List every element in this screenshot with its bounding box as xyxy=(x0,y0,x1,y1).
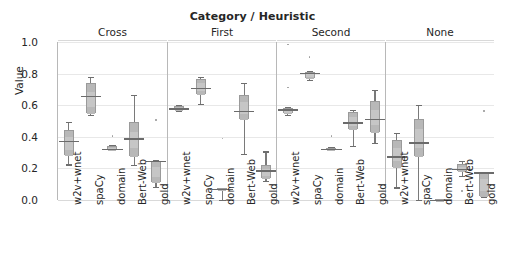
panel-top-rule xyxy=(277,40,385,41)
box-density-band xyxy=(371,110,379,118)
y-tick-label: 0.8 xyxy=(4,69,38,80)
box-density-band xyxy=(87,107,95,115)
cap-lower xyxy=(372,143,378,144)
median-line xyxy=(124,138,144,140)
median-line xyxy=(300,73,320,75)
whisker-upper xyxy=(134,95,135,122)
x-tick-label: w2v+wnet xyxy=(399,152,410,205)
box-density-band xyxy=(130,140,138,148)
whisker-lower xyxy=(396,167,397,187)
x-tick-label: spaCy xyxy=(421,174,432,205)
whisker-lower xyxy=(418,156,419,200)
panel-top-rule xyxy=(168,40,276,41)
x-tick-label: domain xyxy=(225,168,236,205)
cap-lower xyxy=(198,104,204,105)
x-tick-label: domain xyxy=(443,168,454,205)
outlier-point xyxy=(112,135,114,137)
outlier-point xyxy=(155,119,157,121)
outlier-point xyxy=(309,56,311,58)
boxplot-gold[interactable] xyxy=(145,42,167,200)
whisker-lower xyxy=(68,155,69,164)
box-iqr[interactable] xyxy=(239,95,249,119)
cap-upper xyxy=(66,122,72,123)
whisker-upper xyxy=(374,90,375,101)
boxplot-figure: Category / Heuristic Value 0.00.20.40.60… xyxy=(0,0,505,280)
median-line xyxy=(81,96,101,98)
box-iqr[interactable] xyxy=(86,83,96,113)
box-density-band xyxy=(87,84,95,92)
box-density-band xyxy=(371,125,379,133)
x-tick-label: Bert-Web xyxy=(355,159,366,205)
box-density-band xyxy=(152,177,160,182)
outlier-point xyxy=(461,190,463,192)
y-tick-label: 0.6 xyxy=(4,100,38,111)
box-density-band xyxy=(415,148,423,157)
median-line xyxy=(191,88,211,90)
panel-title: None xyxy=(386,26,494,38)
box-iqr[interactable] xyxy=(196,79,206,94)
box-density-band xyxy=(306,77,314,79)
panel-top-rule xyxy=(58,40,167,41)
cap-lower xyxy=(285,115,291,116)
box-density-band xyxy=(262,176,270,179)
whisker-lower xyxy=(244,119,245,153)
x-tick-label: gold xyxy=(268,183,279,205)
boxplot-gold[interactable] xyxy=(473,42,495,200)
panel-title: Second xyxy=(277,26,385,38)
x-tick-label: gold xyxy=(486,183,497,205)
x-axis-tick-labels: w2v+wnetspaCydomainBert-Webgoldw2v+wnets… xyxy=(57,203,493,280)
box-density-band xyxy=(130,123,138,131)
whisker-lower xyxy=(353,129,354,146)
x-tick-label: w2v+wnet xyxy=(290,152,301,205)
whisker-upper xyxy=(244,83,245,95)
cap-upper xyxy=(131,95,137,96)
median-line xyxy=(169,108,189,110)
cap-upper xyxy=(241,83,247,84)
cap-lower xyxy=(176,111,182,112)
box-density-band xyxy=(349,126,357,130)
median-line xyxy=(59,141,79,143)
median-line xyxy=(365,119,385,121)
box-density-band xyxy=(415,120,423,129)
box-density-band xyxy=(240,114,248,120)
box-density-band xyxy=(175,110,183,111)
outlier-point xyxy=(483,110,485,112)
outlier-point xyxy=(222,138,224,140)
x-tick-label: gold xyxy=(159,183,170,205)
median-line xyxy=(278,109,298,111)
x-tick-label: w2v+wnet xyxy=(72,152,83,205)
whisker-upper xyxy=(265,151,266,165)
cap-lower xyxy=(241,154,247,155)
x-tick-label: spaCy xyxy=(312,174,323,205)
outlier-point xyxy=(331,135,333,137)
median-line xyxy=(146,161,166,163)
median-line xyxy=(343,122,363,124)
whisker-lower xyxy=(200,94,201,104)
cap-upper xyxy=(88,77,94,78)
y-tick-label: 0.4 xyxy=(4,132,38,143)
whisker-lower xyxy=(374,132,375,143)
outlier-point xyxy=(287,44,289,46)
box-density-band xyxy=(415,129,423,138)
x-tick-label: spaCy xyxy=(94,174,105,205)
cap-upper xyxy=(372,90,378,91)
cap-upper xyxy=(394,133,400,134)
box-density-band xyxy=(371,102,379,110)
x-tick-label: domain xyxy=(334,168,345,205)
cap-lower xyxy=(263,181,269,182)
box-iqr[interactable] xyxy=(370,101,380,132)
panel-title: First xyxy=(168,26,276,38)
boxplot-gold[interactable] xyxy=(364,42,386,200)
box-density-band xyxy=(197,91,205,95)
box-iqr[interactable] xyxy=(348,112,358,130)
x-tick-label: spaCy xyxy=(203,174,214,205)
box-iqr[interactable] xyxy=(414,119,424,156)
cap-upper xyxy=(416,105,422,106)
y-tick-label: 0.2 xyxy=(4,163,38,174)
cap-lower xyxy=(350,146,356,147)
box-iqr[interactable] xyxy=(151,161,161,182)
panel-top-rule xyxy=(386,40,494,41)
box-density-band xyxy=(393,141,401,148)
chart-title: Category / Heuristic xyxy=(0,10,505,23)
boxplot-gold[interactable] xyxy=(255,42,277,200)
